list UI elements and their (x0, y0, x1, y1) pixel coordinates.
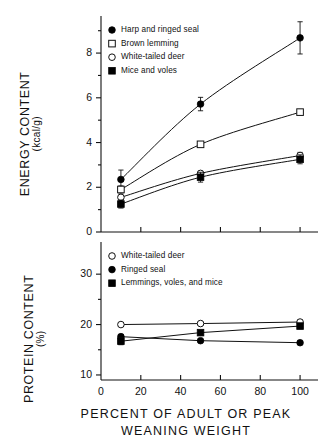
x-axis-title: PERCENT OF ADULT OR PEAK WEANING WEIGHT (55, 406, 317, 440)
legend-label: Brown lemming (121, 39, 179, 48)
protein-axis-title-units: (%) (36, 331, 47, 347)
legend-label: Ringed seal (121, 265, 165, 274)
data-point (197, 174, 204, 181)
legend (109, 27, 116, 74)
y-ticks (96, 274, 101, 375)
legend-label: Harp and ringed seal (121, 25, 199, 34)
data-point (118, 176, 125, 183)
x-axis-title-line-2: WEANING WEIGHT (55, 423, 317, 440)
data-point (118, 186, 125, 193)
energy-axis-title: ENERGY CONTENT (kcal/g) (15, 49, 43, 219)
legend (109, 253, 116, 287)
series-line (121, 156, 300, 198)
series-line (121, 112, 300, 189)
legend-marker (109, 253, 116, 260)
x-tick-label: 60 (200, 385, 240, 397)
protein-axis-title: PROTEIN CONTENT (%) (19, 259, 47, 419)
legend-label: White-tailed deer (121, 52, 185, 61)
x-tick-label: 0 (81, 385, 121, 397)
figure-container: ENERGY CONTENT (kcal/g) PROTEIN CONTENT … (0, 0, 327, 448)
data-point (197, 141, 204, 148)
y-tick-label-protein: 30 (60, 267, 92, 279)
legend-marker (109, 27, 116, 34)
data-point (197, 101, 204, 108)
x-ticks (141, 375, 300, 380)
y-tick-label-protein: 10 (60, 368, 92, 380)
legend-marker (109, 40, 116, 47)
data-point (297, 109, 304, 116)
data-point (297, 35, 304, 42)
x-tick-label: 100 (280, 385, 320, 397)
series-line (121, 337, 300, 343)
x-tick-label: 20 (121, 385, 161, 397)
x-tick-label: 40 (161, 385, 201, 397)
y-tick-label-protein: 20 (60, 318, 92, 330)
data-point (297, 339, 304, 346)
series-line (121, 326, 300, 341)
y-tick-label-energy: 2 (60, 180, 92, 192)
y-tick-label-energy: 8 (60, 46, 92, 58)
x-axis-title-line-1: PERCENT OF ADULT OR PEAK (55, 406, 317, 423)
legend-label: Mice and voles (121, 66, 177, 75)
data-point (297, 156, 304, 163)
legend-label: White-tailed deer (121, 251, 185, 260)
data-point (197, 329, 204, 336)
data-point (197, 320, 204, 327)
legend-marker (109, 266, 116, 273)
data-point (197, 337, 204, 344)
data-point (297, 323, 304, 330)
legend-marker (109, 280, 116, 287)
energy-axis-title-units: (kcal/g) (32, 116, 43, 151)
legend-marker (109, 54, 116, 61)
y-tick-label-energy: 4 (60, 136, 92, 148)
legend-label: Lemmings, voles, and mice (121, 278, 223, 287)
y-tick-label-energy: 6 (60, 91, 92, 103)
data-point (118, 338, 125, 345)
series-line (121, 322, 300, 325)
x-tick-label: 80 (240, 385, 280, 397)
data-point (118, 321, 125, 328)
legend-marker (109, 68, 116, 75)
y-tick-label-energy: 0 (60, 225, 92, 237)
axis-spines (101, 242, 318, 380)
